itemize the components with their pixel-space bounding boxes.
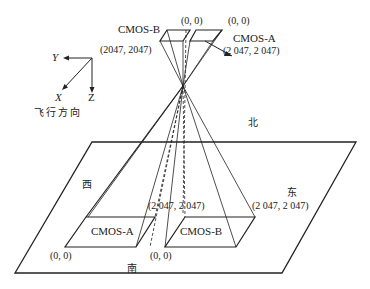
projection-diagram <box>0 0 370 289</box>
top-cmos-a-origin-coord: (0, 0) <box>228 16 250 26</box>
axis-z-label: Z <box>88 92 95 103</box>
ground-cmos-b-origin-coord: (0, 0) <box>150 251 172 261</box>
top-cmos-a-sensor <box>190 30 222 41</box>
top-cmos-b-sensor <box>160 30 190 41</box>
top-cmos-a-max-coord: (2 047, 2 047) <box>223 46 280 56</box>
top-cmos-b-label: CMOS-B <box>118 24 160 35</box>
direction-west-label: 西 <box>82 180 94 190</box>
ground-cmos-a-origin-coord: (0, 0) <box>50 251 72 261</box>
direction-north-label: 北 <box>248 118 260 128</box>
ground-cmos-b-label: CMOS-B <box>180 226 222 237</box>
top-cmos-b-max-coord: (2047, 2047) <box>100 45 152 55</box>
flight-direction-caption: 飞行方向 <box>34 108 82 118</box>
ground-cmos-a-label: CMOS-A <box>91 226 134 237</box>
top-cmos-a-label: CMOS-A <box>233 33 276 44</box>
direction-south-label: 南 <box>127 264 139 274</box>
axis-y-label: Y <box>52 52 58 63</box>
axis-x-label: X <box>55 92 62 103</box>
ground-shared-corner-coord: (2 047, 2 047) <box>148 201 205 211</box>
axis-triad <box>62 56 95 94</box>
projection-rays <box>86 30 255 247</box>
top-cmos-b-origin-coord: (0, 0) <box>181 16 203 26</box>
ground-cmos-b-max-coord: (2 047, 2 047) <box>252 201 309 211</box>
direction-east-label: 东 <box>287 188 299 198</box>
